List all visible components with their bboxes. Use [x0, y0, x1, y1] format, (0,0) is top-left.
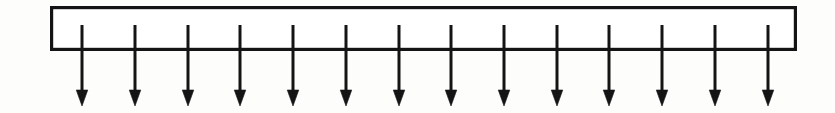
- load-rectangle-group: [52, 8, 796, 50]
- udl-figure-root: [0, 0, 835, 113]
- load-rectangle: [52, 8, 796, 50]
- udl-diagram-svg: [0, 0, 835, 113]
